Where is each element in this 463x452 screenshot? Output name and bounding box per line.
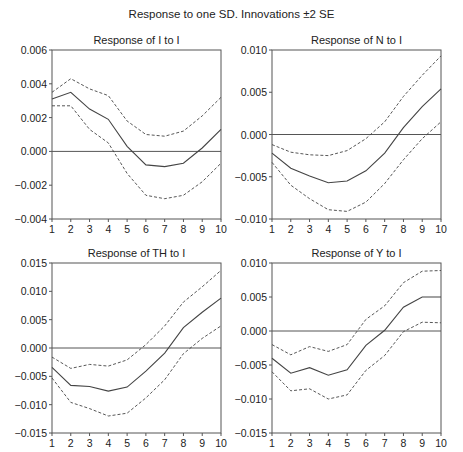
y-tick-label: 0.005 xyxy=(241,291,267,303)
series-response xyxy=(272,89,441,183)
y-tick-label: −0.010 xyxy=(235,393,268,405)
x-tick-label: 8 xyxy=(181,223,187,235)
x-tick-label: 6 xyxy=(143,223,149,235)
y-tick-label: 0.010 xyxy=(241,44,267,56)
x-tick-label: 6 xyxy=(363,223,369,235)
chart-title: Response of N to I xyxy=(311,34,402,46)
x-tick-label: 4 xyxy=(325,223,331,235)
x-tick-label: 9 xyxy=(419,437,425,449)
chart-panel-2: Response of N to I−0.010−0.0050.0000.005… xyxy=(235,34,447,235)
series-response xyxy=(52,92,221,166)
y-tick-label: 0.004 xyxy=(21,78,47,90)
y-tick-label: −0.015 xyxy=(235,427,268,439)
x-tick-label: 5 xyxy=(124,223,130,235)
chart-panel-1: Response of I to I−0.004−0.0020.0000.002… xyxy=(15,34,227,235)
plot-frame xyxy=(52,50,221,219)
x-tick-label: 3 xyxy=(87,223,93,235)
x-tick-label: 2 xyxy=(288,223,294,235)
x-tick-label: 2 xyxy=(68,437,74,449)
x-tick-label: 1 xyxy=(269,223,275,235)
x-tick-label: 10 xyxy=(215,223,227,235)
x-tick-label: 9 xyxy=(199,437,205,449)
x-tick-label: 9 xyxy=(419,223,425,235)
chart-title: Response of I to I xyxy=(93,34,179,46)
x-tick-label: 5 xyxy=(344,223,350,235)
x-tick-label: 7 xyxy=(162,223,168,235)
x-tick-label: 4 xyxy=(105,437,111,449)
x-tick-label: 4 xyxy=(325,437,331,449)
series-response xyxy=(272,297,441,375)
y-tick-label: −0.005 xyxy=(235,171,268,183)
x-tick-label: 10 xyxy=(435,437,447,449)
y-tick-label: −0.005 xyxy=(235,359,268,371)
x-tick-label: 3 xyxy=(307,437,313,449)
x-tick-label: 7 xyxy=(382,223,388,235)
x-tick-label: 1 xyxy=(49,437,55,449)
series-lower-2se xyxy=(52,326,221,416)
series-lower-2se xyxy=(272,322,441,399)
x-tick-label: 5 xyxy=(344,437,350,449)
x-tick-label: 8 xyxy=(181,437,187,449)
x-tick-label: 3 xyxy=(307,223,313,235)
y-tick-label: −0.010 xyxy=(15,399,48,411)
x-tick-label: 1 xyxy=(49,223,55,235)
series-lower-2se xyxy=(52,106,221,199)
plot-frame xyxy=(272,263,441,433)
series-lower-2se xyxy=(272,122,441,212)
x-tick-label: 7 xyxy=(382,437,388,449)
chart-panel-4: Response of Y to I−0.015−0.010−0.0050.00… xyxy=(235,247,447,449)
chart-panel-3: Response of TH to I−0.015−0.010−0.0050.0… xyxy=(15,247,227,449)
series-upper-2se xyxy=(52,79,221,137)
series-upper-2se xyxy=(52,270,221,368)
x-tick-label: 10 xyxy=(215,437,227,449)
x-tick-label: 8 xyxy=(401,437,407,449)
x-tick-label: 7 xyxy=(162,437,168,449)
x-tick-label: 9 xyxy=(199,223,205,235)
y-tick-label: 0.010 xyxy=(241,257,267,269)
y-tick-label: 0.005 xyxy=(241,86,267,98)
y-tick-label: 0.006 xyxy=(21,44,47,56)
x-tick-label: 3 xyxy=(87,437,93,449)
y-tick-label: −0.002 xyxy=(15,179,48,191)
y-tick-label: 0.000 xyxy=(21,342,47,354)
y-tick-label: 0.015 xyxy=(21,257,47,269)
y-tick-label: 0.005 xyxy=(21,314,47,326)
x-tick-label: 5 xyxy=(124,437,130,449)
y-tick-label: 0.010 xyxy=(21,285,47,297)
impulse-response-charts: Response of I to I−0.004−0.0020.0000.002… xyxy=(0,0,463,452)
x-tick-label: 4 xyxy=(105,223,111,235)
y-tick-label: 0.002 xyxy=(21,112,47,124)
x-tick-label: 1 xyxy=(269,437,275,449)
series-upper-2se xyxy=(272,56,441,156)
y-tick-label: 0.000 xyxy=(21,145,47,157)
x-tick-label: 10 xyxy=(435,223,447,235)
x-tick-label: 6 xyxy=(363,437,369,449)
y-tick-label: −0.010 xyxy=(235,213,268,225)
y-tick-label: −0.005 xyxy=(15,370,48,382)
x-tick-label: 6 xyxy=(143,437,149,449)
series-upper-2se xyxy=(272,271,441,355)
series-response xyxy=(52,298,221,391)
chart-title: Response of Y to I xyxy=(311,247,401,259)
y-tick-label: −0.004 xyxy=(15,213,48,225)
y-tick-label: 0.000 xyxy=(241,325,267,337)
x-tick-label: 2 xyxy=(288,437,294,449)
x-tick-label: 2 xyxy=(68,223,74,235)
chart-title: Response of TH to I xyxy=(88,247,186,259)
y-tick-label: −0.015 xyxy=(15,427,48,439)
y-tick-label: 0.000 xyxy=(241,129,267,141)
x-tick-label: 8 xyxy=(401,223,407,235)
